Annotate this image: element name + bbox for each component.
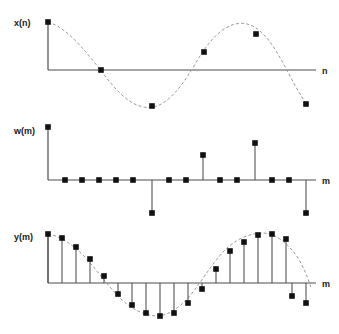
output-dot — [227, 248, 233, 254]
impulse-dot — [200, 152, 206, 158]
impulse-dot — [45, 124, 51, 130]
sample-dot — [201, 49, 207, 55]
output-dot — [185, 300, 191, 306]
sample-dot — [98, 67, 104, 73]
output-dot — [255, 232, 261, 238]
output-dot — [157, 313, 163, 319]
zero-dot — [217, 177, 223, 183]
panel-xn-axes — [48, 22, 316, 70]
output-dot — [283, 236, 289, 242]
panel-xn-xlabel: n — [322, 66, 328, 76]
panel-ym: y(m) m — [14, 231, 330, 319]
zero-dot — [96, 177, 102, 183]
panel-xn-samples — [45, 19, 309, 109]
output-dot — [101, 273, 107, 279]
zero-dot — [113, 177, 119, 183]
panel-xn-envelope — [48, 22, 306, 108]
zero-dot — [234, 177, 240, 183]
panel-ym-xlabel: m — [322, 279, 330, 289]
output-dot — [115, 291, 121, 297]
output-dot — [73, 244, 79, 250]
output-dot — [213, 266, 219, 272]
output-dot — [303, 300, 309, 306]
zero-dot — [269, 177, 275, 183]
panel-ym-dots — [45, 231, 309, 319]
signal-processing-figure: x(n) n w(m) m — [0, 0, 339, 334]
sample-dot — [253, 31, 259, 37]
panel-wm-impulse-dots — [45, 124, 309, 216]
impulse-dot — [252, 140, 258, 146]
panel-wm-axes — [48, 127, 316, 180]
panel-wm-ylabel: w(m) — [13, 126, 35, 136]
panel-wm: w(m) m — [13, 124, 330, 216]
zero-dot — [286, 177, 292, 183]
output-dot — [289, 293, 295, 299]
impulse-dot — [149, 210, 155, 216]
zero-dot — [183, 177, 189, 183]
output-dot — [199, 286, 205, 292]
output-dot — [269, 231, 275, 237]
output-dot — [45, 231, 51, 237]
panel-xn-ylabel: x(n) — [14, 18, 31, 28]
output-dot — [241, 239, 247, 245]
zero-dot — [166, 177, 172, 183]
sample-dot — [45, 19, 51, 25]
sample-dot — [149, 103, 155, 109]
panel-wm-stems — [152, 143, 306, 213]
zero-dot — [62, 177, 68, 183]
panel-ym-ylabel: y(m) — [14, 232, 33, 242]
impulse-dot — [303, 210, 309, 216]
sample-dot — [303, 101, 309, 107]
output-dot — [143, 310, 149, 316]
output-dot — [129, 302, 135, 308]
output-dot — [171, 310, 177, 316]
panel-xn: x(n) n — [14, 18, 328, 109]
zero-dot — [79, 177, 85, 183]
output-dot — [59, 235, 65, 241]
output-dot — [87, 256, 93, 262]
panel-wm-xlabel: m — [322, 176, 330, 186]
zero-dot — [130, 177, 136, 183]
